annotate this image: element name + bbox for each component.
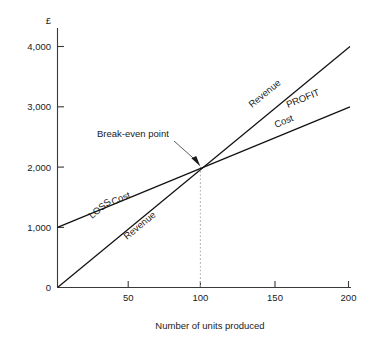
- break-even-arrow-icon: [191, 156, 200, 167]
- profit-region-label: PROFIT: [285, 86, 322, 110]
- x-tick-label-100: 100: [192, 292, 208, 303]
- y-tick-label-1000: 1,000: [27, 222, 51, 233]
- axis-group: [58, 28, 352, 288]
- revenue-label-left: Revenue: [121, 209, 157, 242]
- break-even-point-label: Break-even point: [97, 128, 169, 139]
- x-tick-label-50: 50: [123, 292, 134, 303]
- data-series-group: [58, 47, 351, 288]
- loss-region-label: LOSS: [86, 196, 113, 221]
- x-tick-label-150: 150: [267, 292, 283, 303]
- cost-label-right: Cost: [273, 112, 296, 130]
- y-tick-label-0: 0: [46, 282, 51, 293]
- x-tick-marks: [128, 281, 348, 288]
- y-tick-labels: 4,000 3,000 2,000 1,000 0: [27, 41, 51, 293]
- y-tick-label-2000: 2,000: [27, 162, 51, 173]
- y-tick-label-4000: 4,000: [27, 41, 51, 52]
- break-even-annotation: Break-even point: [97, 128, 200, 167]
- x-tick-labels: 50 100 150 200: [123, 292, 357, 303]
- revenue-label-right: Revenue: [246, 77, 282, 110]
- chart-canvas: £ 4,000 3,000 2,000 1,000 0 50 100 150 2…: [0, 0, 378, 345]
- cost-label-left: Cost: [110, 189, 133, 207]
- y-tick-label-3000: 3,000: [27, 101, 51, 112]
- y-axis-currency-symbol: £: [46, 15, 52, 26]
- x-tick-label-200: 200: [341, 292, 357, 303]
- x-axis-title: Number of units produced: [155, 320, 264, 331]
- y-tick-marks: [58, 47, 65, 228]
- inline-label-group: LOSS Revenue Cost Revenue PROFIT Cost: [86, 77, 321, 242]
- break-even-chart: £ 4,000 3,000 2,000 1,000 0 50 100 150 2…: [0, 0, 378, 345]
